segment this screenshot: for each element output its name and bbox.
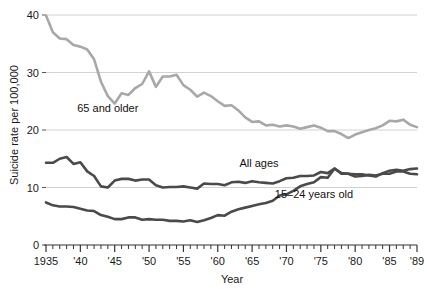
x-tick-label: '85 xyxy=(382,255,396,267)
x-tick-label: '55 xyxy=(176,255,190,267)
y-tick-label: 0 xyxy=(33,239,39,251)
x-tick-label: '40 xyxy=(73,255,87,267)
series-label: 65 and older xyxy=(77,102,138,114)
x-tick-label: '60 xyxy=(211,255,225,267)
suicide-rate-line-chart: 010203040 1935'40'45'50'55'60'65'70'75'8… xyxy=(0,0,427,289)
x-tick-label: '65 xyxy=(245,255,259,267)
y-tick-label: 10 xyxy=(27,182,39,194)
x-tick-label: 1935 xyxy=(34,255,58,267)
series-label: 15–24 years old xyxy=(275,188,353,200)
y-axis-title: Suicide rate per 100,000 xyxy=(8,65,20,185)
x-tick-label: '70 xyxy=(279,255,293,267)
x-tick-label: '75 xyxy=(314,255,328,267)
chart-canvas: 010203040 1935'40'45'50'55'60'65'70'75'8… xyxy=(0,0,427,289)
x-tick-label: '50 xyxy=(142,255,156,267)
x-axis-title: Year xyxy=(221,273,244,285)
x-tick-label: '45 xyxy=(108,255,122,267)
y-tick-label: 40 xyxy=(27,9,39,21)
y-tick-label: 30 xyxy=(27,67,39,79)
x-tick-label: '89 xyxy=(410,255,424,267)
chart-background xyxy=(0,0,427,289)
y-tick-label: 20 xyxy=(27,124,39,136)
series-label: All ages xyxy=(239,157,279,169)
x-tick-label: '80 xyxy=(348,255,362,267)
